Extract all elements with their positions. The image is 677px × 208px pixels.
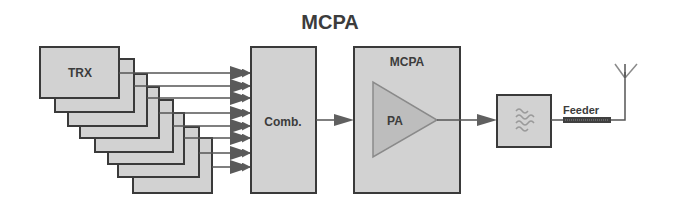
diagram-title: MCPA bbox=[301, 11, 358, 33]
mcpa-block-diagram: MCPA TRX bbox=[0, 0, 677, 208]
combiner-to-mcpa-arrow bbox=[316, 114, 354, 126]
trx-label: TRX bbox=[68, 66, 92, 80]
feeder-to-antenna-line bbox=[611, 72, 625, 120]
combiner-label: Comb. bbox=[264, 115, 301, 129]
antenna-icon bbox=[615, 64, 637, 78]
filter-block bbox=[497, 95, 551, 147]
combiner-block: Comb. bbox=[251, 47, 316, 193]
trx-stack: TRX bbox=[40, 47, 212, 193]
feeder-label: Feeder bbox=[563, 104, 600, 116]
feeder: Feeder bbox=[563, 104, 611, 123]
mcpa-label: MCPA bbox=[390, 55, 425, 69]
amplifier-label: PA bbox=[387, 114, 403, 128]
